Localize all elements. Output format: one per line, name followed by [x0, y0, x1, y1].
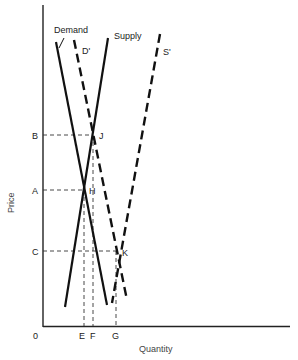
quantity-G-label: G [112, 331, 119, 341]
supply-curve [65, 38, 108, 307]
demand-label: Demand [54, 25, 88, 35]
point-K-label: K [122, 248, 128, 258]
point-J-label: J [99, 131, 104, 141]
point-H-label: H [89, 186, 96, 196]
supply-label: Supply [114, 31, 142, 41]
quantity-F-label: F [90, 331, 96, 341]
price-C-label: C [32, 247, 39, 257]
supply-demand-diagram: Demand D' Supply S' J H K B A C 0 E F G … [0, 0, 298, 360]
demand-pointer [59, 38, 64, 48]
price-B-label: B [32, 131, 38, 141]
supply-prime-label: S' [163, 47, 171, 57]
x-axis-title: Quantity [139, 344, 173, 354]
price-A-label: A [32, 186, 38, 196]
quantity-E-label: E [79, 331, 85, 341]
y-axis-title: Price [6, 192, 16, 213]
demand-prime-label: D' [82, 46, 90, 56]
supply-prime-curve [112, 34, 160, 303]
origin-label: 0 [33, 331, 38, 341]
